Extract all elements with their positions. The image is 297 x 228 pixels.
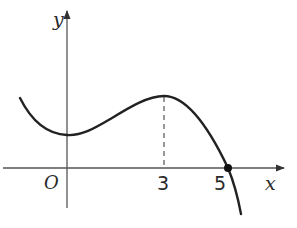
function-curve [20,96,241,214]
tick-label-3: 3 [157,172,169,194]
origin-label: O [44,172,59,193]
y-axis-label: y [52,8,64,30]
tick-label-5: 5 [214,172,226,194]
x-axis-label: x [265,172,276,194]
x-intercept-point [224,164,232,172]
function-graph: y x O 3 5 [0,0,297,228]
